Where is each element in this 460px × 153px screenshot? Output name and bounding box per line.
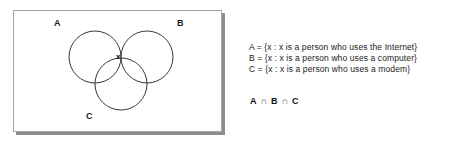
venn-diagram-panel [13, 10, 222, 132]
element-marker-x: x [116, 53, 120, 61]
intersection-operator-icon-2: ∩ [277, 96, 291, 106]
set-label-c: C [86, 112, 93, 121]
intersection-operator-icon: ∩ [257, 96, 271, 106]
definition-set-a: A = {x : x is a person who uses the Inte… [249, 42, 449, 53]
venn-circles-graphic [14, 11, 223, 133]
set-label-a: A [54, 19, 61, 28]
set-label-b: B [177, 19, 184, 28]
circle-set-c [95, 58, 147, 110]
definition-set-c: C = {x : x is a person who uses a modem} [249, 64, 449, 75]
circle-set-b [121, 31, 173, 83]
venn-diagram-figure: A B C x A = {x : x is a person who uses … [0, 0, 460, 153]
circle-set-a [69, 31, 121, 83]
intersection-expression: A∩B∩C [250, 97, 298, 106]
definition-set-b: B = {x : x is a person who uses a comput… [249, 53, 449, 64]
expression-term-a: A [250, 96, 257, 106]
expression-term-c: C [292, 96, 299, 106]
set-definitions-list: A = {x : x is a person who uses the Inte… [249, 42, 449, 75]
